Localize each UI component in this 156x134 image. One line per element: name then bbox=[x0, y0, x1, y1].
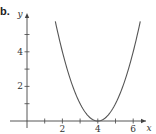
y-tick-label: 2 bbox=[17, 81, 23, 91]
x-axis-label: x bbox=[146, 123, 151, 133]
x-axis-arrow-icon bbox=[141, 119, 146, 123]
x-tick-label: 2 bbox=[60, 124, 66, 134]
y-tick-label: 4 bbox=[17, 47, 23, 57]
x-tick-label: 4 bbox=[95, 124, 101, 134]
label-layer: 24624xy bbox=[16, 9, 151, 134]
parabola-curve bbox=[55, 21, 140, 121]
x-tick-label: 6 bbox=[130, 124, 136, 134]
parabola-plot: 24624xy bbox=[0, 0, 156, 134]
y-axis-label: y bbox=[16, 9, 23, 19]
axes bbox=[10, 13, 146, 128]
curve-layer bbox=[55, 21, 140, 121]
y-axis-arrow-icon bbox=[25, 13, 29, 18]
